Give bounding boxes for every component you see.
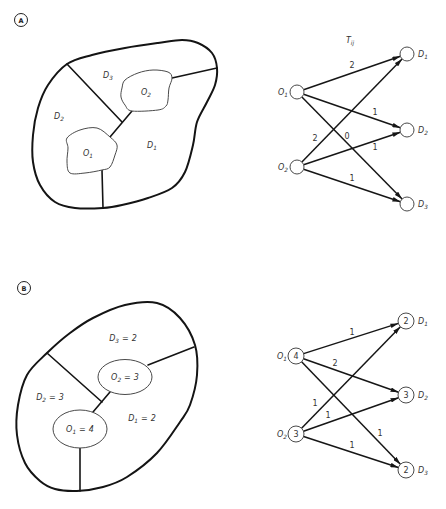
origin-zone-o1 (66, 128, 117, 174)
flow-arrow-o2-d1 (302, 59, 402, 162)
destination-label-d1: D1 (418, 317, 428, 327)
zone-label-d1: D1=2 (128, 414, 156, 424)
zone-label-d2: D2=3 (36, 393, 64, 403)
flow-value-o2-d3: 1 (349, 441, 354, 450)
panel-letter: A (18, 17, 23, 25)
flow-value-o2-d1: 2 (312, 134, 317, 143)
panel-b-badge: B (18, 282, 31, 295)
zone-divider (110, 111, 132, 137)
zone-label-d2: D2 (54, 112, 64, 122)
origin-label-o1: O1 (278, 88, 288, 98)
panel-a-badge: A (15, 14, 28, 27)
flow-value-o1-d3: 0 (344, 132, 349, 141)
panel-b-zone-map: D3=2 O2=3 D2=3 O1=4 D1=2 (16, 302, 197, 491)
panel-a-flow-network: Tij O1 O2 D1 D2 D3 2 1 0 2 1 1 (278, 36, 428, 211)
panel-b: B D3=2 O2=3 D2=3 O1=4 D1=2 (16, 282, 428, 492)
zone-divider (67, 64, 122, 122)
panel-a-zone-map: D3 O2 D2 O1 D1 (32, 40, 217, 209)
zone-label-o1: O1=4 (66, 425, 94, 435)
destination-label-d3: D3 (418, 200, 428, 210)
flow-value-o1-d2: 2 (332, 359, 337, 368)
destination-label-d3: D3 (418, 466, 428, 476)
destination-node-d3 (400, 197, 414, 211)
panel-b-flow-network: 4 3 2 3 2 O1 O2 D1 D2 D3 1 2 1 1 1 1 (277, 313, 428, 478)
zone-divider (102, 170, 103, 208)
zone-label-d1: D1 (147, 141, 157, 151)
flow-arrow-o1-d2 (304, 359, 399, 393)
panel-a: A D3 O2 D2 O1 D1 Tij (15, 14, 429, 212)
zone-divider (93, 392, 110, 412)
origin-total-o1: 4 (293, 352, 298, 361)
flow-arrow-o2-d2 (304, 398, 399, 432)
destination-label-d2: D2 (418, 391, 428, 401)
destination-total-d1: 2 (403, 317, 408, 326)
origin-node-o2 (290, 160, 304, 174)
flow-value-o2-d3: 1 (349, 174, 354, 183)
flow-value-o1-d1: 2 (349, 61, 354, 70)
origin-label-o2: O2 (277, 430, 287, 440)
zone-label-d3: D3 (103, 71, 113, 81)
destination-node-d2 (400, 123, 414, 137)
origin-total-o2: 3 (293, 430, 298, 439)
destination-node-d1 (400, 47, 414, 61)
zone-divider (172, 68, 217, 78)
flow-value-o2-d1: 1 (312, 399, 317, 408)
study-area-boundary (32, 40, 217, 209)
flow-value-o2-d2: 1 (325, 411, 330, 420)
trip-distribution-figure: A D3 O2 D2 O1 D1 Tij (0, 0, 446, 509)
flow-value-o1-d2: 1 (372, 108, 377, 117)
zone-divider (148, 347, 194, 365)
destination-total-d3: 2 (403, 466, 408, 475)
origin-label-o2: O2 (278, 163, 288, 173)
zone-label-o2: O2=3 (111, 373, 139, 383)
flow-value-o2-d2: 1 (372, 143, 377, 152)
origin-label-o1: O1 (277, 352, 287, 362)
origin-node-o1 (290, 85, 304, 99)
flow-value-o1-d1: 1 (349, 328, 354, 337)
destination-label-d2: D2 (418, 126, 428, 136)
flow-value-o1-d3: 1 (377, 429, 382, 438)
network-title: Tij (346, 36, 355, 47)
destination-label-d1: D1 (418, 50, 428, 60)
zone-label-d3: D3=2 (109, 334, 137, 344)
destination-total-d2: 3 (403, 391, 408, 400)
flow-arrow-o2-d2 (304, 132, 401, 165)
panel-letter: B (22, 285, 27, 293)
